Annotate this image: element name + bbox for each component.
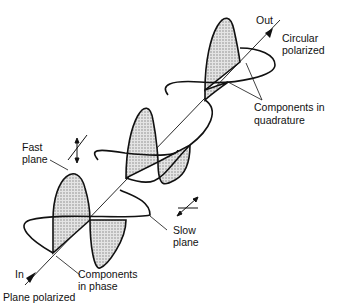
label-plane-polarized: Plane polarized — [3, 291, 75, 304]
out-arrow-icon — [265, 28, 273, 38]
fast-axis-symbol-icon — [68, 135, 87, 163]
slow-axis-symbol-icon — [177, 197, 198, 216]
label-slow-1: Slow — [173, 224, 196, 237]
label-out: Out — [256, 14, 273, 27]
label-phase-1: Components — [78, 268, 138, 281]
label-quadrature-1: Components in — [254, 101, 325, 114]
leader-lines — [50, 63, 262, 275]
label-slow-2: plane — [173, 236, 199, 249]
label-in: In — [15, 268, 24, 281]
label-phase-2: in phase — [78, 280, 118, 293]
label-fast-2: plane — [22, 153, 48, 166]
label-fast-1: Fast — [22, 141, 42, 154]
label-circular-2: polarized — [282, 44, 325, 57]
label-circular-1: Circular — [282, 32, 318, 45]
label-quadrature-2: quadrature — [254, 114, 305, 127]
in-arrow-icon — [26, 272, 36, 283]
